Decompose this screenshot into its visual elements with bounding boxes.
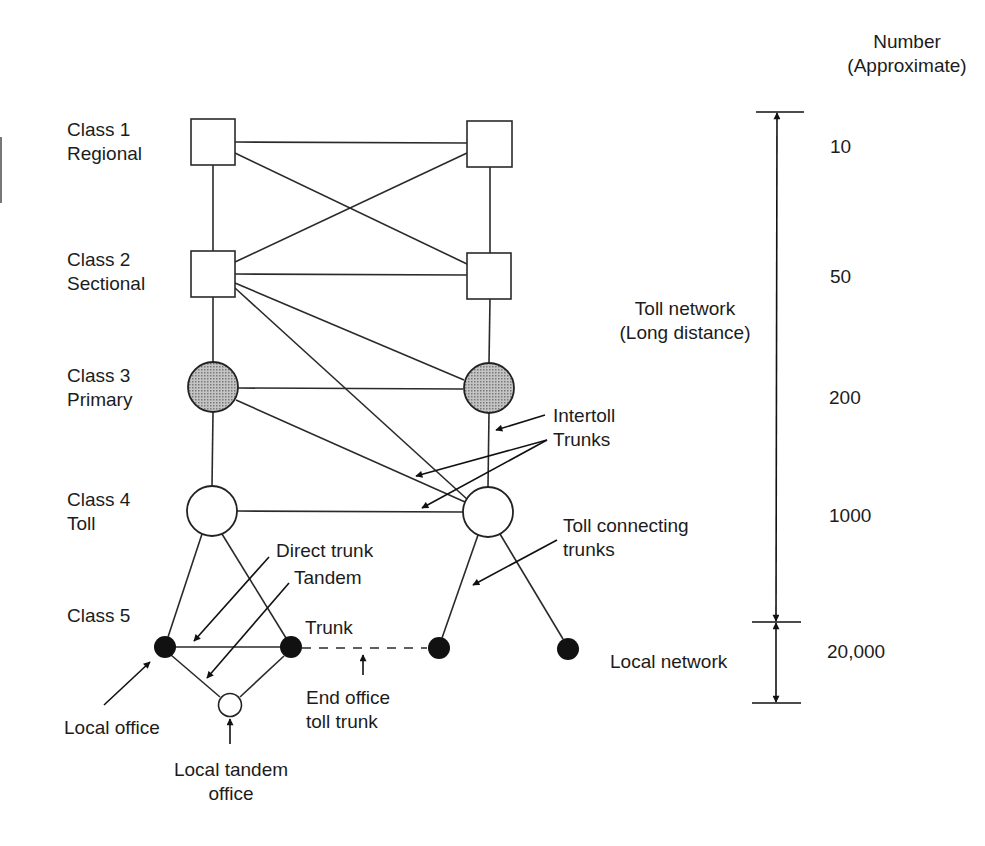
intertoll-trunks-label: Intertoll Trunks: [553, 404, 615, 452]
class1-label: Class 1 Regional: [67, 118, 142, 166]
trunk-label: Trunk: [305, 616, 353, 640]
class4-label: Class 4 Toll: [67, 488, 130, 536]
class5-end-office-1: [154, 636, 176, 658]
end-office-line2: toll trunk: [306, 710, 390, 734]
class1-regional-office-left: [191, 119, 235, 165]
end-office-line1: End office: [306, 686, 390, 710]
end-office-toll-trunk-label: End office toll trunk: [306, 686, 390, 734]
class1-regional-office-right: [467, 121, 512, 167]
class1-name: Class 1: [67, 118, 142, 142]
count-class3: 200: [829, 386, 861, 410]
local-tandem-office-node: [219, 694, 242, 717]
class2-name: Class 2: [67, 248, 145, 272]
class2-type: Sectional: [67, 272, 145, 296]
trunk-lines: [168, 142, 563, 697]
toll-network-title: Toll network: [590, 297, 780, 321]
count-class5: 20,000: [827, 640, 885, 664]
intertoll-line2: Trunks: [553, 428, 615, 452]
class3-label: Class 3 Primary: [67, 364, 132, 412]
local-office-label: Local office: [64, 716, 160, 740]
class3-primary-office-left: [188, 362, 238, 412]
class3-primary-office-right: [464, 363, 514, 413]
class2-sectional-office-left: [191, 251, 235, 297]
class4-toll-office-right: [463, 487, 513, 537]
local-tandem-line1: Local tandem: [146, 758, 316, 782]
class5-end-office-4: [557, 638, 579, 660]
toll-network-label: Toll network (Long distance): [590, 297, 780, 345]
class4-name: Class 4: [67, 488, 130, 512]
number-header-title: Number: [837, 30, 977, 54]
intertoll-line1: Intertoll: [553, 404, 615, 428]
toll-connecting-line1: Toll connecting: [563, 514, 689, 538]
toll-network-subtitle: (Long distance): [590, 321, 780, 345]
class3-name: Class 3: [67, 364, 132, 388]
class5-name: Class 5: [67, 604, 130, 628]
class4-type: Toll: [67, 512, 130, 536]
local-network-label: Local network: [610, 650, 727, 674]
direct-trunk-label: Direct trunk: [276, 539, 373, 563]
number-header: Number (Approximate): [837, 30, 977, 78]
count-class1: 10: [830, 135, 851, 159]
class2-label: Class 2 Sectional: [67, 248, 145, 296]
class5-end-office-3: [428, 637, 450, 659]
count-class2: 50: [830, 265, 851, 289]
dimension-lines: [752, 112, 804, 703]
class5-label: Class 5: [67, 604, 130, 628]
toll-connecting-trunks-label: Toll connecting trunks: [563, 514, 689, 562]
toll-connecting-line2: trunks: [563, 538, 689, 562]
number-header-subtitle: (Approximate): [837, 54, 977, 78]
count-class4: 1000: [829, 504, 871, 528]
tandem-label: Tandem: [294, 566, 362, 590]
class4-toll-office-left: [187, 486, 237, 536]
local-tandem-office-label: Local tandem office: [146, 758, 316, 806]
class3-type: Primary: [67, 388, 132, 412]
class2-sectional-office-right: [467, 253, 511, 299]
local-tandem-line2: office: [146, 782, 316, 806]
class1-type: Regional: [67, 142, 142, 166]
class5-end-office-2: [280, 636, 302, 658]
